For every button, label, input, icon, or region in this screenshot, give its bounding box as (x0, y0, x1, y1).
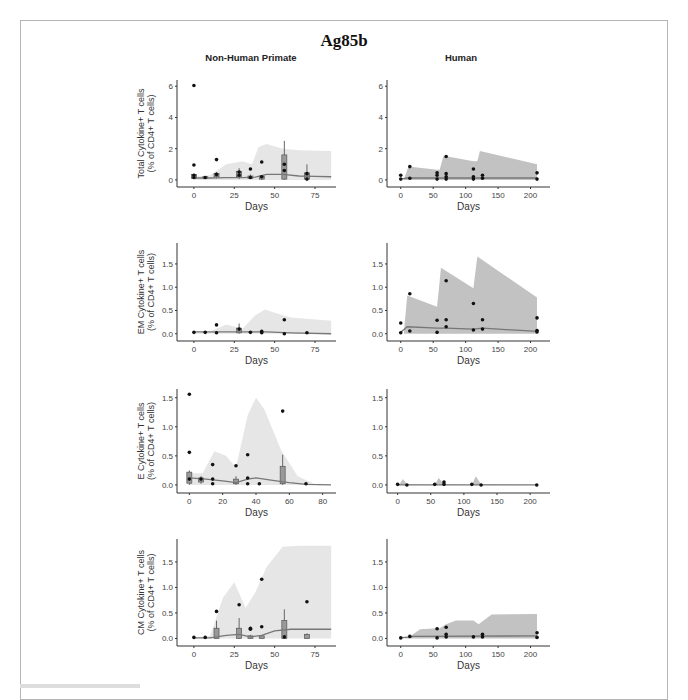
data-point (479, 483, 483, 487)
data-point (535, 330, 539, 334)
data-point (472, 302, 476, 306)
x-tick-label: 50 (429, 345, 438, 354)
y-tick-label: 4 (379, 113, 384, 122)
x-tick-label: 0 (395, 497, 400, 506)
data-point (481, 635, 485, 639)
y-tick-label: 1.0 (372, 283, 384, 292)
data-point (249, 627, 253, 631)
data-point (444, 625, 448, 629)
y-tick-label: 1.5 (372, 558, 384, 567)
data-point (481, 327, 485, 331)
confidence-band (399, 476, 537, 485)
data-point (192, 84, 196, 88)
data-point (408, 329, 412, 333)
data-point (237, 327, 241, 331)
data-point (211, 463, 215, 467)
data-point (211, 477, 215, 481)
data-point (246, 453, 250, 457)
data-point (237, 170, 241, 174)
y-tick-label: 0.0 (372, 481, 384, 490)
y-tick-label: 6 (379, 82, 384, 91)
x-tick-label: 0 (192, 650, 197, 659)
x-tick-label: 200 (524, 650, 538, 659)
chart-nhp-cm: 0.00.51.01.50255075DaysCM Cytokine+ T ce… (136, 539, 336, 671)
x-tick-label: 75 (311, 345, 320, 354)
confidence-band (194, 546, 331, 639)
data-point (283, 162, 287, 166)
data-point (246, 476, 250, 480)
x-tick-label: 200 (523, 497, 537, 506)
y-tick-label: 0.0 (372, 330, 384, 339)
data-point (399, 173, 403, 177)
x-tick-label: 200 (524, 191, 538, 200)
data-point (188, 477, 192, 481)
x-tick-label: 100 (459, 650, 473, 659)
confidence-band (404, 256, 537, 333)
y-tick-label: 2 (169, 145, 174, 154)
data-point (215, 173, 219, 177)
x-tick-label: 20 (218, 497, 227, 506)
data-point (470, 483, 474, 487)
data-point (188, 451, 192, 455)
x-tick-label: 0 (192, 191, 197, 200)
data-point (283, 332, 287, 336)
data-point (203, 636, 207, 640)
y-tick-label: 1.5 (372, 394, 384, 403)
data-point (199, 477, 203, 481)
x-tick-label: 150 (490, 497, 504, 506)
data-point (535, 483, 539, 487)
data-point (535, 171, 539, 175)
data-point (237, 173, 241, 177)
y-tick-label: 0 (379, 176, 384, 185)
x-tick-label: 25 (230, 650, 239, 659)
data-point (472, 635, 476, 639)
data-point (249, 331, 253, 335)
x-tick-label: 75 (311, 650, 320, 659)
data-point (405, 483, 409, 487)
y-tick-label: 1.5 (162, 260, 174, 269)
x-tick-label: 50 (270, 345, 279, 354)
data-point (281, 409, 285, 413)
y-tick-label: 1.0 (372, 583, 384, 592)
data-point (258, 482, 262, 486)
x-tick-label: 40 (252, 497, 261, 506)
data-point (481, 177, 485, 181)
x-axis-label: Days (457, 507, 480, 518)
data-point (237, 603, 241, 607)
y-tick-label: 0.0 (372, 634, 384, 643)
data-point (283, 635, 287, 639)
y-axis-label: EM Cytokine+ T cells (136, 249, 146, 334)
box-plot (282, 155, 287, 179)
x-tick-label: 0 (399, 191, 404, 200)
x-tick-label: 0 (187, 497, 192, 506)
y-tick-label: 2 (379, 145, 384, 154)
confidence-band (189, 398, 331, 485)
x-tick-label: 25 (230, 345, 239, 354)
data-point (192, 176, 196, 180)
chart-human-em: 0.00.51.01.5050100150200Days (372, 243, 550, 366)
data-point (444, 325, 448, 329)
data-point (192, 331, 196, 335)
data-point (305, 331, 309, 335)
x-tick-label: 100 (457, 497, 471, 506)
data-point (260, 160, 264, 164)
x-tick-label: 50 (426, 497, 435, 506)
chart-human-total: 0246050100150200Days (379, 80, 550, 212)
data-point (215, 610, 219, 614)
y-tick-label: 0.5 (372, 609, 384, 618)
y-tick-label: 0.5 (162, 306, 174, 315)
x-tick-label: 75 (311, 191, 320, 200)
x-axis-label: Days (245, 201, 268, 212)
data-point (481, 318, 485, 322)
x-tick-label: 0 (192, 345, 197, 354)
y-tick-label: 1.0 (162, 283, 174, 292)
data-point (408, 635, 412, 639)
data-point (435, 331, 439, 335)
figure-caption-stub (20, 684, 140, 688)
x-tick-label: 50 (270, 191, 279, 200)
data-point (192, 636, 196, 640)
data-point (215, 158, 219, 162)
x-tick-label: 60 (285, 497, 294, 506)
y-axis-label-units: (% of CD4+ T cells) (146, 554, 156, 632)
data-point (435, 636, 439, 640)
